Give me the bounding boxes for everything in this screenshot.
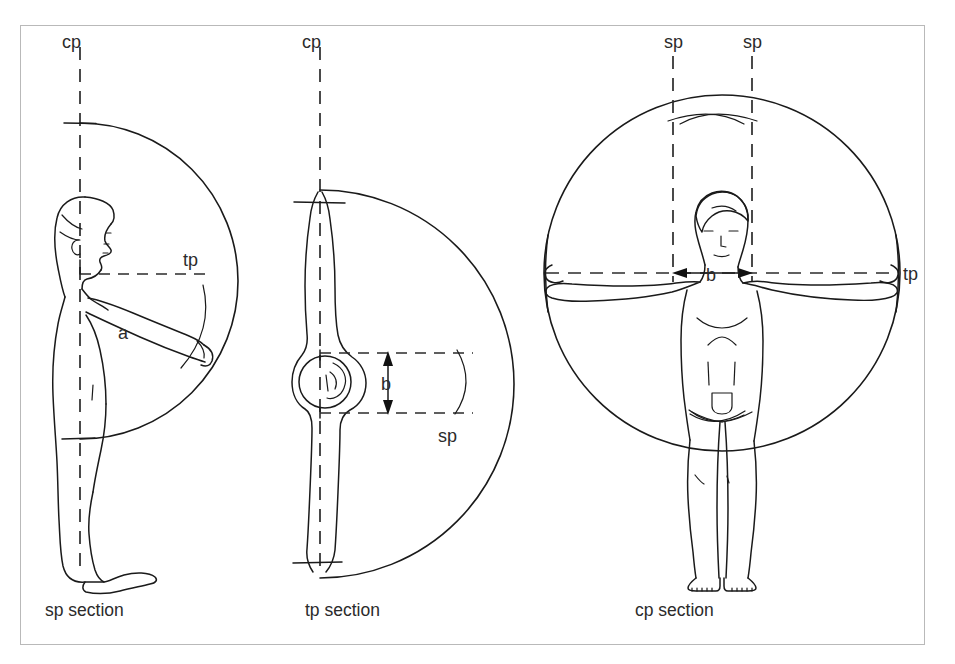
- label-tp-right: tp: [903, 264, 918, 284]
- label-cp-left: cp: [62, 32, 81, 52]
- profile-hip-crease: [92, 385, 93, 400]
- profile-abdomen-front: [93, 404, 106, 492]
- label-cp-middle: cp: [302, 32, 321, 52]
- sp-arc: [80, 123, 238, 439]
- profile-jaw: [82, 270, 101, 289]
- dim-b-arrowhead-right-right: [738, 268, 753, 278]
- cp-left-foot: [688, 578, 720, 591]
- tp-body-right-edge: [322, 192, 366, 572]
- tp-arc: [320, 190, 514, 578]
- caption-cp-section: cp section: [635, 600, 714, 620]
- label-dim-a: a: [118, 323, 129, 343]
- diagram-canvas: cp tp a sp section: [0, 0, 955, 664]
- cp-inner-leg-left: [717, 422, 720, 578]
- dim-b-arrowhead-left-right: [672, 268, 687, 278]
- cp-right-leg-outer: [748, 441, 756, 578]
- caption-sp-section: sp section: [45, 600, 124, 620]
- cp-pelvis-shape: [712, 393, 732, 414]
- cp-abdomen-line-left: [708, 362, 709, 385]
- cp-knee-left: [695, 475, 704, 484]
- cp-right-arm: [743, 281, 897, 300]
- profile-chest-front: [86, 315, 106, 404]
- cp-inner-leg-right: [725, 422, 728, 578]
- tp-body-left-edge: [292, 192, 318, 572]
- profile-foot: [83, 573, 157, 593]
- arc-top-tick-left: [64, 123, 96, 124]
- arc-bottom-tick-left: [62, 438, 95, 439]
- cp-mouth: [714, 255, 729, 257]
- cp-chest-line: [697, 318, 747, 328]
- tp-head-tick: [294, 202, 345, 203]
- figure-root: cp tp a sp section: [0, 0, 955, 664]
- caption-tp-section: tp section: [305, 600, 380, 620]
- profile-hair-top: [85, 197, 114, 224]
- cp-left-arm: [546, 282, 700, 302]
- sp-plane-chord: [455, 350, 466, 414]
- tp-hair-part: [326, 375, 328, 391]
- panel-cp-section: sp sp tp b cp section: [544, 32, 918, 620]
- profile-hair-strand-2: [60, 232, 80, 240]
- tp-hair-swirl-inner: [330, 372, 336, 389]
- tp-head-circle: [299, 356, 351, 408]
- profile-arm-bottom: [86, 312, 205, 362]
- cp-sternum-line: [708, 337, 736, 345]
- profile-leg-front: [89, 492, 104, 582]
- panel-tp-section: cp sp b tp section: [292, 32, 514, 620]
- cp-abdomen-line-right: [734, 362, 735, 385]
- label-tp-left: tp: [183, 250, 198, 270]
- cp-nose: [721, 236, 726, 247]
- label-sp-right-right: sp: [743, 32, 762, 52]
- label-sp-middle: sp: [438, 426, 457, 446]
- tp-foot-tick: [293, 562, 342, 563]
- cp-left-leg-outer: [688, 440, 696, 578]
- cp-right-foot: [724, 578, 756, 591]
- label-dim-b-right: b: [706, 265, 716, 285]
- label-sp-right-left: sp: [664, 32, 683, 52]
- label-dim-b-middle: b: [381, 374, 391, 394]
- cp-torso-left: [681, 290, 690, 440]
- profile-face: [100, 224, 111, 270]
- profile-hair-strand-1: [62, 215, 82, 229]
- profile-ear: [72, 240, 80, 255]
- panel-sp-section: cp tp a sp section: [45, 32, 238, 620]
- cp-torso-right: [754, 291, 763, 441]
